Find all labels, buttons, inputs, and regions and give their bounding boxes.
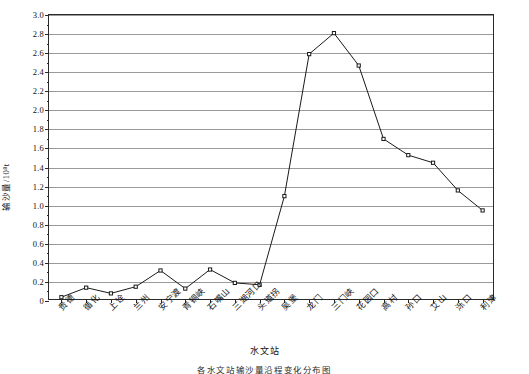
data-point-marker [357, 64, 360, 67]
y-axis-tick-label: 2.8 [33, 30, 44, 39]
data-point-marker [382, 137, 385, 140]
data-point-marker [109, 292, 112, 295]
data-point-marker [85, 286, 88, 289]
y-axis-title: 输沙量/10⁸t [0, 163, 11, 210]
data-point-marker [332, 32, 335, 35]
y-axis-tick-label: 2.4 [33, 68, 44, 77]
data-point-marker [431, 161, 434, 164]
data-point-marker [481, 209, 484, 212]
data-point-marker [208, 268, 211, 271]
data-point-marker [134, 285, 137, 288]
y-axis-tick-label: 1.6 [33, 144, 44, 153]
data-point-marker [159, 269, 162, 272]
y-axis-tick-label: 1.4 [33, 163, 44, 172]
chart-figure: 输沙量/10⁸t 00.20.40.60.81.01.21.41.61.82.0… [0, 0, 529, 374]
figure-caption: 各水文站输沙量沿程变化分布图 [0, 363, 529, 374]
x-axis-title: 水文站 [0, 344, 529, 357]
data-point-marker [184, 287, 187, 290]
data-point-marker [283, 195, 286, 198]
y-axis-tick-label: 0.4 [33, 259, 44, 268]
y-axis-tick-label: 0 [40, 297, 44, 306]
data-point-marker [233, 281, 236, 284]
y-axis-tick-label: 1.8 [33, 125, 44, 134]
series-line [61, 33, 482, 297]
series-markers [60, 32, 484, 299]
y-axis-tick-label: 2.2 [33, 87, 44, 96]
y-axis-tick-label: 2.0 [33, 106, 44, 115]
y-axis-tick-label: 0.2 [33, 278, 44, 287]
y-axis-tick-label: 3.0 [33, 11, 44, 20]
y-axis-tick-label: 1.0 [33, 201, 44, 210]
y-axis-tick-label: 1.2 [33, 182, 44, 191]
data-point-marker [456, 189, 459, 192]
y-axis-tick-mark [45, 301, 49, 302]
y-axis-tick-label: 2.6 [33, 49, 44, 58]
y-axis-tick-label: 0.8 [33, 220, 44, 229]
plot-area: 00.20.40.60.81.01.21.41.61.82.02.22.42.6… [48, 14, 494, 300]
data-point-marker [308, 52, 311, 55]
data-point-marker [407, 154, 410, 157]
y-axis-tick-label: 0.6 [33, 240, 44, 249]
series-sediment-load [49, 15, 495, 301]
